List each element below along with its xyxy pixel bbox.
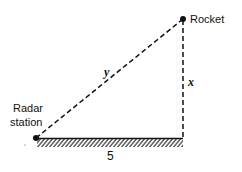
radar-station-point — [33, 135, 39, 141]
radar-label-line1: Radar — [13, 102, 43, 114]
rocket-point — [180, 16, 186, 22]
triangle-diagram — [0, 0, 242, 172]
hypotenuse-dashed-line — [36, 19, 183, 138]
rocket-label: Rocket — [190, 13, 224, 25]
vertical-label-x: x — [188, 76, 194, 88]
radar-label-line2: station — [10, 116, 42, 128]
stray-mark — [24, 144, 25, 145]
ground-length-label: 5 — [107, 150, 114, 162]
ground-hatch — [37, 139, 183, 147]
hypotenuse-label-y: y — [104, 66, 109, 78]
